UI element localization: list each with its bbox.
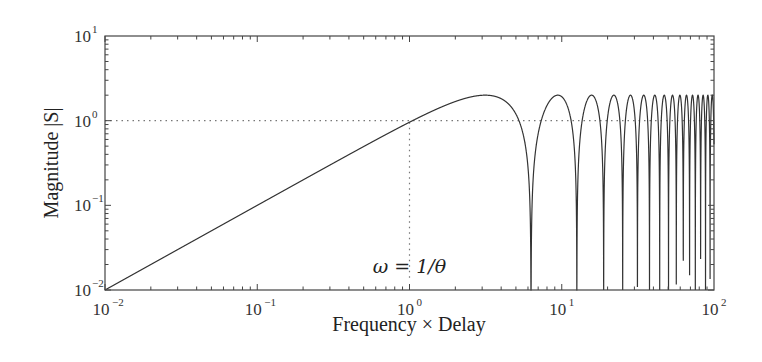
svg-text:10: 10	[74, 281, 91, 300]
svg-text:10: 10	[74, 27, 91, 46]
svg-text:−2: −2	[92, 277, 104, 289]
svg-text:10: 10	[74, 196, 91, 215]
svg-text:−1: −1	[264, 296, 276, 308]
y-tick-label: 100	[74, 108, 98, 131]
y-tick-labels: 10−210−1100101	[74, 23, 104, 300]
y-tick-label: 10−1	[74, 192, 104, 215]
svg-text:1: 1	[92, 23, 98, 35]
y-tick-label: 10−2	[74, 277, 104, 300]
svg-text:10: 10	[702, 300, 719, 319]
y-axis-title: Magnitude |S|	[40, 108, 63, 219]
svg-text:10: 10	[245, 300, 262, 319]
x-tick-label: 10−2	[93, 296, 124, 319]
magnitude-plot: 10−210−1100101102 10−210−1100101 ω = 1/θ…	[0, 0, 762, 362]
svg-text:10: 10	[93, 300, 110, 319]
svg-text:10: 10	[74, 112, 91, 131]
svg-text:2: 2	[721, 296, 727, 308]
svg-text:−2: −2	[112, 296, 124, 308]
x-tick-label: 10−1	[245, 296, 276, 319]
y-tick-label: 101	[74, 23, 98, 46]
svg-text:1: 1	[569, 296, 575, 308]
svg-text:0: 0	[92, 108, 98, 120]
svg-text:−1: −1	[92, 192, 104, 204]
svg-text:0: 0	[417, 296, 423, 308]
x-axis-title: Frequency × Delay	[332, 313, 485, 336]
omega-annotation: ω = 1/θ	[373, 255, 447, 277]
x-tick-label: 101	[549, 296, 574, 319]
x-tick-label: 102	[702, 296, 727, 319]
svg-text:10: 10	[549, 300, 566, 319]
